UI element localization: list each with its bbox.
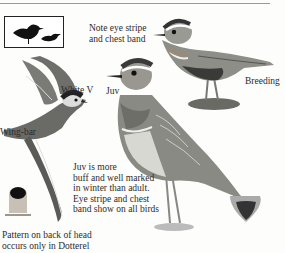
juv-note-line-4: Eye stripe and chest	[73, 194, 159, 205]
head-note-line-2: occurs only in Dotterel	[2, 241, 92, 252]
white-v-label: White V	[61, 85, 93, 96]
field-guide-page: Note eye stripe and chest band Breeding	[0, 0, 285, 253]
head-pattern-left-figure	[3, 183, 33, 217]
silhouette-icon	[5, 17, 63, 47]
juv-note-label: Juv is more buff and well marked in wint…	[73, 162, 159, 215]
note-line-2: and chest band	[89, 34, 147, 45]
breeding-label: Breeding	[245, 76, 280, 87]
wing-bar-label: Wing-bar	[0, 127, 36, 138]
juv-note-line-2: buff and well marked	[73, 173, 159, 184]
head-pattern-right-figure	[226, 192, 266, 226]
size-silhouettes-box	[4, 16, 64, 48]
juv-note-line-5: band show on all birds	[73, 204, 159, 215]
juv-label: Juv	[106, 86, 119, 97]
note-eye-stripe-label: Note eye stripe and chest band	[89, 23, 147, 44]
note-line-1: Note eye stripe	[89, 23, 147, 34]
head-note-line-1: Pattern on back of head	[2, 230, 92, 241]
juv-note-line-3: in winter than adult.	[73, 183, 159, 194]
juv-note-line-1: Juv is more	[73, 162, 159, 173]
head-pattern-note-label: Pattern on back of head occurs only in D…	[2, 230, 92, 251]
top-rule	[0, 3, 270, 4]
